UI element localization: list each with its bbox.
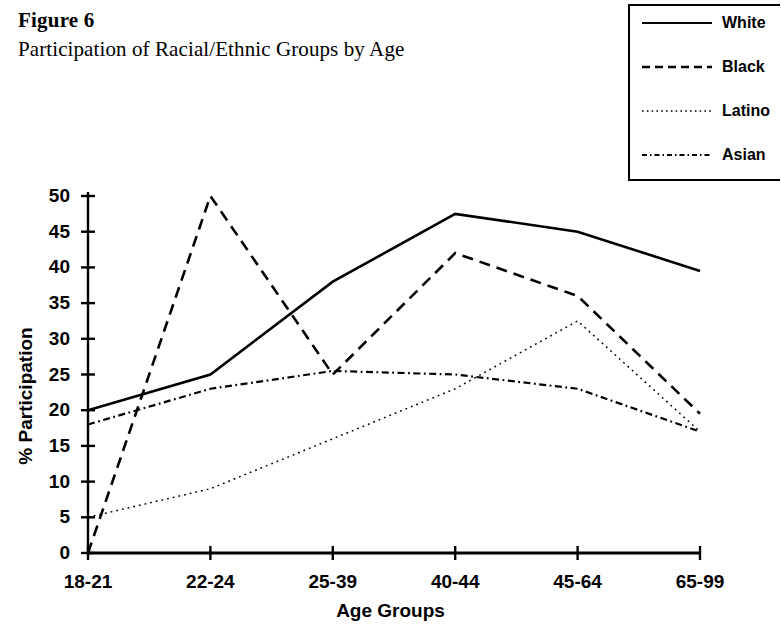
series-line-latino: [88, 321, 700, 517]
y-tick-label: 25: [30, 364, 70, 386]
x-tick-label: 25-39: [278, 571, 388, 593]
y-tick-label: 45: [30, 221, 70, 243]
series-line-white: [88, 214, 700, 410]
x-tick-label: 45-64: [523, 571, 633, 593]
chart-plot-area: % Participation Age Groups 0510152025303…: [0, 0, 781, 638]
y-tick-label: 50: [30, 185, 70, 207]
figure-container: Figure 6 Participation of Racial/Ethnic …: [0, 0, 781, 638]
series-line-black: [88, 196, 700, 553]
y-tick-label: 0: [30, 542, 70, 564]
x-axis-title: Age Groups: [0, 600, 781, 622]
series-line-asian: [88, 371, 700, 432]
y-tick-label: 20: [30, 399, 70, 421]
y-tick-label: 10: [30, 471, 70, 493]
y-tick-label: 35: [30, 292, 70, 314]
x-tick-label: 40-44: [400, 571, 510, 593]
y-tick-label: 5: [30, 506, 70, 528]
y-tick-label: 15: [30, 435, 70, 457]
x-tick-label: 18-21: [33, 571, 143, 593]
y-tick-label: 40: [30, 256, 70, 278]
y-tick-label: 30: [30, 328, 70, 350]
x-tick-label: 65-99: [645, 571, 755, 593]
chart-canvas: [0, 0, 781, 638]
x-tick-label: 22-24: [155, 571, 265, 593]
